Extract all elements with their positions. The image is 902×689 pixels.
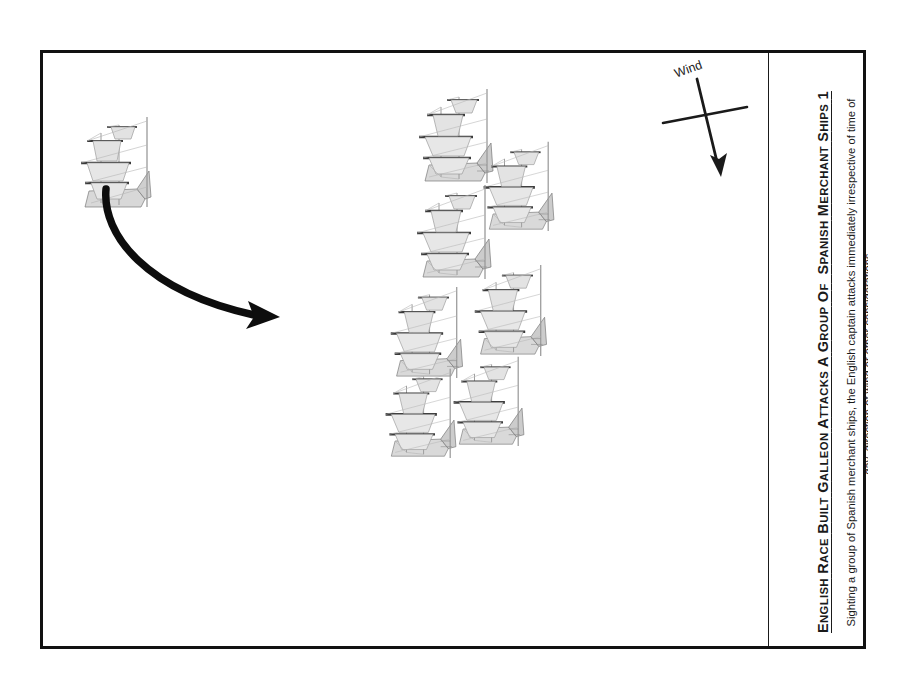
wind-direction-arrow-icon xyxy=(655,61,765,186)
title-token: O xyxy=(815,291,831,303)
title-figure-number: 1 xyxy=(815,91,831,99)
title-token: R xyxy=(815,563,831,574)
caption-panel: ENGLISH RACE BUILT GALLEON ATTACKS A GRO… xyxy=(769,53,868,646)
title-token: S xyxy=(815,265,831,275)
title-token: M xyxy=(815,204,831,216)
title-token: UILT xyxy=(818,497,830,523)
wind-indicator: Wind xyxy=(655,61,765,186)
title-token: HIPS xyxy=(818,104,830,132)
diagram-frame: Wind ENGLISH RACE BUILT GALLEON ATTACKS … xyxy=(40,50,866,649)
attack-course-arrow xyxy=(88,183,298,348)
curved-arrow-icon xyxy=(88,183,298,348)
title-token: NGLISH xyxy=(818,578,830,623)
scene-area: Wind xyxy=(43,53,768,646)
title-token: A xyxy=(815,357,831,367)
title-token: F xyxy=(818,283,830,290)
title-token: E xyxy=(815,623,831,633)
caption-body-text: Sighting a group of Spanish merchant shi… xyxy=(843,90,868,635)
caption-title: ENGLISH RACE BUILT GALLEON ATTACKS A GRO… xyxy=(815,73,831,633)
title-token: ACE xyxy=(818,538,830,563)
title-token: TTACKS xyxy=(818,371,830,418)
title-token: B xyxy=(815,523,831,534)
title-token: PANISH xyxy=(818,221,830,265)
title-token: ROUP xyxy=(818,307,830,341)
spanish-merchant-ship xyxy=(378,365,465,479)
title-token: G xyxy=(815,481,831,493)
title-token: ALLEON xyxy=(818,433,830,482)
title-token: ERCHANT xyxy=(818,146,830,204)
title-token: A xyxy=(815,418,831,429)
title-token: G xyxy=(815,341,831,353)
title-token: S xyxy=(815,132,831,142)
